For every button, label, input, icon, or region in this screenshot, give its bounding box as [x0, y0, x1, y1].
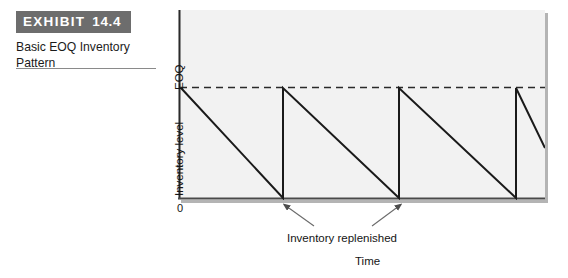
y-axis-tick-eoq: EOQ	[173, 64, 185, 90]
exhibit-banner-label: EXHIBIT	[23, 14, 85, 29]
x-axis-tick-zero: 0	[177, 202, 183, 214]
arrow-right	[372, 205, 401, 227]
y-axis-title: Inventory level	[173, 122, 185, 196]
exhibit-caption-text: Basic EOQ Inventory Pattern	[16, 40, 156, 71]
exhibit-banner: EXHIBIT14.4	[16, 11, 131, 33]
inventory-level-curve	[181, 88, 545, 198]
x-axis-title: Time	[355, 255, 380, 267]
exhibit-banner-number: 14.4	[92, 14, 121, 29]
caption-divider	[16, 68, 156, 69]
chart-panel	[178, 10, 545, 200]
arrow-left	[284, 205, 314, 227]
eoq-sawtooth-plot	[178, 10, 545, 200]
exhibit-caption-block: EXHIBIT14.4 Basic EOQ Inventory Pattern	[16, 11, 161, 71]
replenishment-arrows	[270, 200, 440, 240]
